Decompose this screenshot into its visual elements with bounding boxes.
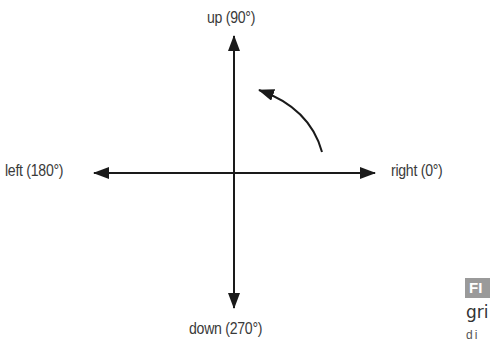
label-down: down (270°) (189, 320, 262, 338)
label-up: up (90°) (207, 9, 255, 27)
label-left: left (180°) (5, 162, 63, 180)
rotation-arrow-icon (259, 90, 322, 152)
figure-caption-fragment-2: di (466, 328, 479, 342)
label-right: right (0°) (391, 162, 443, 180)
figure-badge: FI (465, 278, 490, 298)
figure-caption-fragment: gri (466, 302, 489, 322)
